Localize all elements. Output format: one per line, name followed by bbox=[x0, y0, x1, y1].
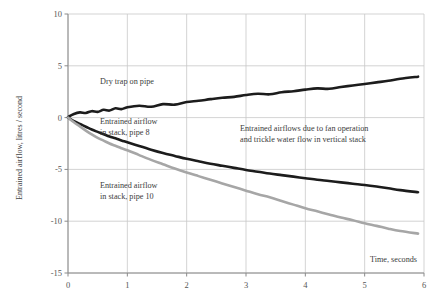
y-tick-label: -5 bbox=[55, 164, 62, 174]
y-axis-title: Entrained airflow, litres / second bbox=[15, 96, 24, 200]
x-tick-label: 4 bbox=[303, 280, 308, 290]
dry-trap-label: Dry trap on pipe bbox=[100, 77, 154, 86]
x-tick-label: 6 bbox=[422, 280, 426, 290]
x-tick-label: 2 bbox=[185, 280, 189, 290]
y-tick-label: -15 bbox=[51, 268, 62, 278]
chart-figure: 1050-5-10-15 0123456 Dry trap on pipeEnt… bbox=[0, 0, 444, 300]
fan-operation-note-line1: Entrained airflows due to fan operation bbox=[240, 124, 368, 133]
x-tick-label: 3 bbox=[244, 280, 248, 290]
y-tick-label: 5 bbox=[58, 61, 62, 71]
pipe8-label-line1: Entrained airflow bbox=[100, 117, 158, 126]
y-tick-label: 10 bbox=[54, 9, 63, 19]
pipe10-label-line2: in stack, pipe 10 bbox=[100, 192, 154, 201]
y-tick-label: 0 bbox=[58, 113, 62, 123]
fan-operation-note-line2: and trickle water flow in vertical stack bbox=[240, 135, 367, 144]
pipe8-label-line2: in stack, pipe 8 bbox=[100, 128, 150, 137]
x-tick-label: 5 bbox=[363, 280, 367, 290]
pipe10-label-line1: Entrained airflow bbox=[100, 181, 158, 190]
chart-svg: 1050-5-10-15 0123456 Dry trap on pipeEnt… bbox=[0, 0, 444, 300]
x-axis-title: Time, seconds bbox=[370, 255, 417, 264]
y-tick-label: -10 bbox=[51, 216, 62, 226]
x-tick-label: 1 bbox=[125, 280, 129, 290]
x-tick-label: 0 bbox=[66, 280, 70, 290]
